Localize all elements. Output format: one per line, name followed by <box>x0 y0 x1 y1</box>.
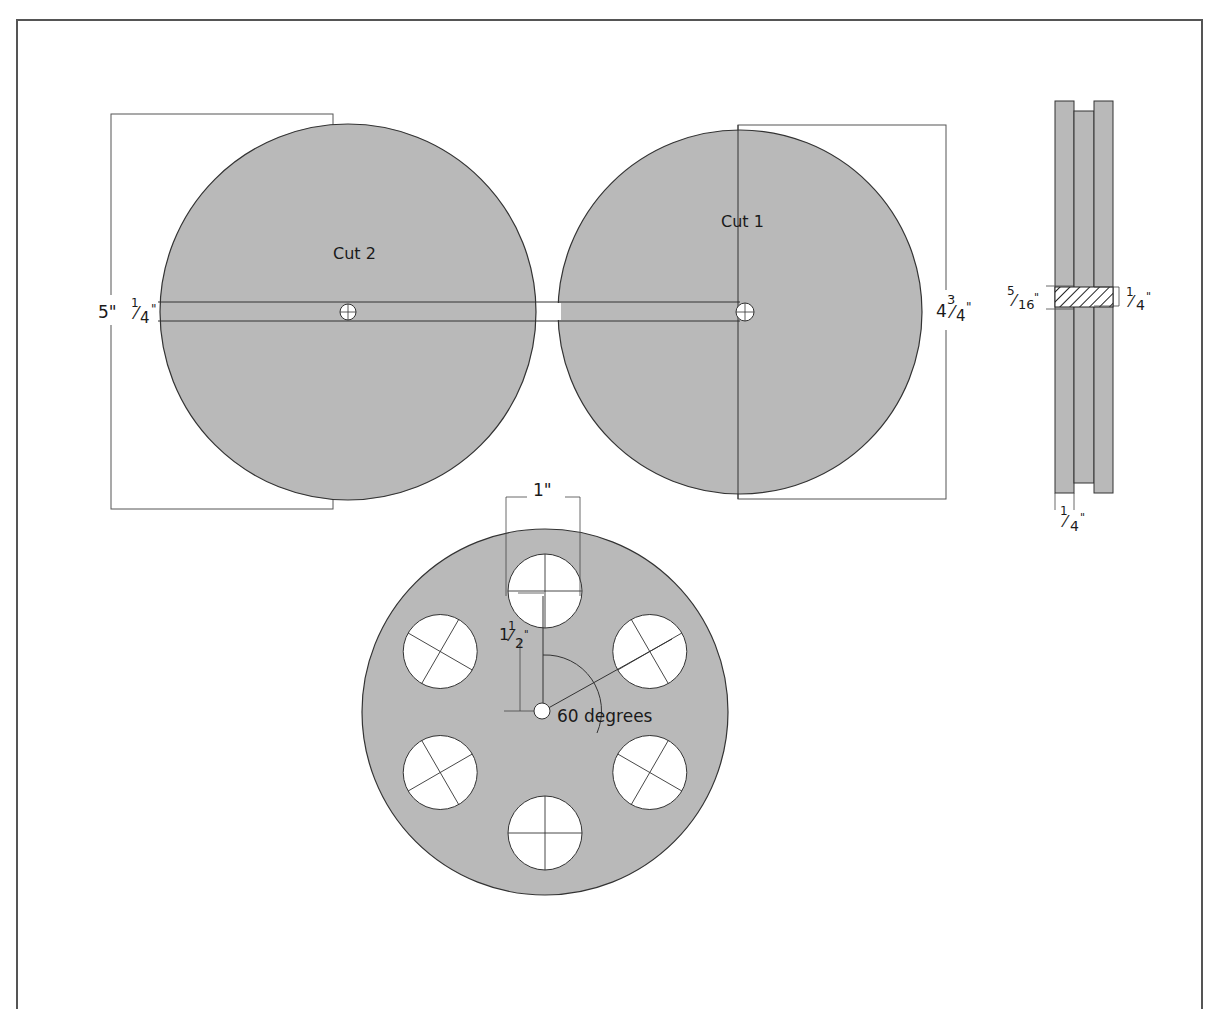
hole-diameter-label: 1" <box>533 480 552 500</box>
fraction-denominator: 4 <box>1070 518 1079 534</box>
inch-mark: " <box>151 302 157 316</box>
groove-dimension-label: 1 ⁄ 4 " <box>1060 504 1085 534</box>
fraction-denominator: 2 <box>515 635 524 651</box>
reel-hole <box>403 736 477 810</box>
fraction-denominator: 4 <box>1136 297 1145 313</box>
reel-center-hole <box>534 703 550 719</box>
hub-hatched-section <box>1055 287 1113 307</box>
inch-mark: " <box>1034 291 1039 304</box>
fraction-denominator: 4 <box>956 307 966 325</box>
fraction-denominator: 4 <box>140 309 150 327</box>
slot-width-label: 1 ⁄ 4 " <box>131 296 157 327</box>
slot-band <box>158 302 745 321</box>
reel-side-section <box>1042 101 1119 510</box>
reel-hole <box>508 796 582 870</box>
fraction-denominator: 16 <box>1018 297 1035 312</box>
reel-hole <box>508 554 582 628</box>
whole-number: 4 <box>936 301 947 321</box>
reel-face-view: 1" 1 1 ⁄ 2 " 60 degrees <box>362 480 728 895</box>
reel-hole <box>613 736 687 810</box>
inch-mark: " <box>524 629 529 640</box>
reel-hole <box>403 615 477 689</box>
angle-label: 60 degrees <box>557 706 653 726</box>
inch-mark: " <box>1146 290 1151 303</box>
cut1-label: Cut 1 <box>721 212 764 231</box>
cut2-label: Cut 2 <box>333 244 376 263</box>
inch-mark: " <box>966 300 972 314</box>
inch-mark: " <box>1080 511 1085 524</box>
slot-gap-fill <box>537 303 561 320</box>
overall-height-label: 5" <box>98 302 117 322</box>
